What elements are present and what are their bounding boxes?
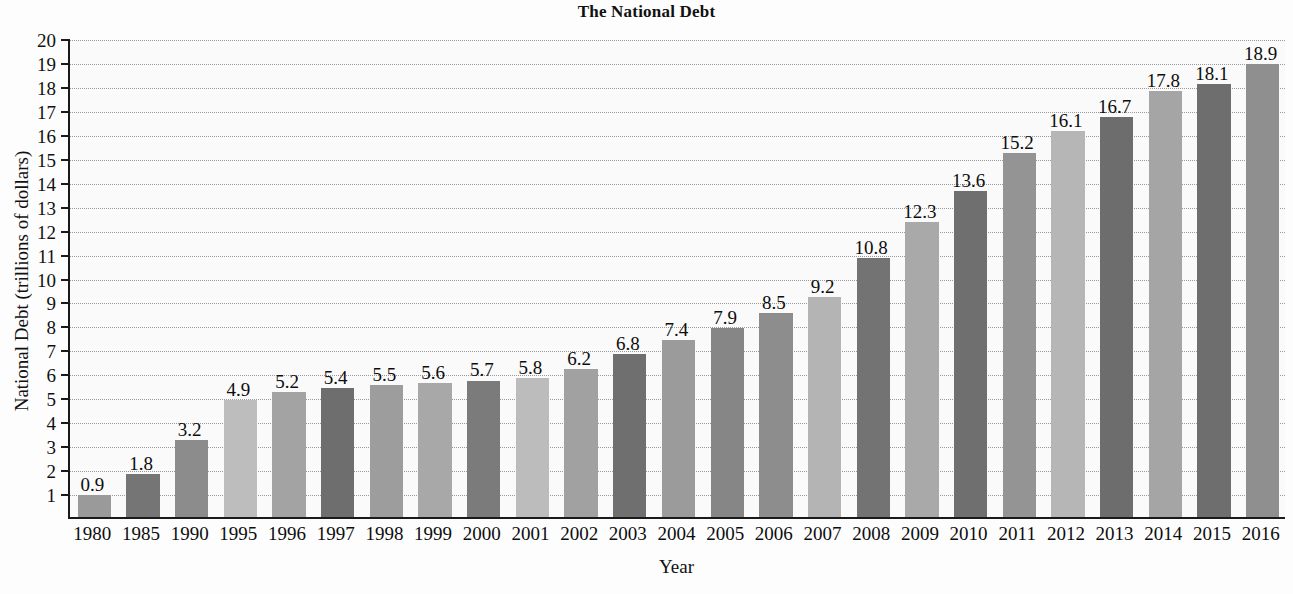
y-axis-tick xyxy=(61,207,70,209)
y-axis-tick xyxy=(61,422,70,424)
y-axis-tick xyxy=(61,231,70,233)
y-axis-tick xyxy=(61,87,70,89)
bar[interactable] xyxy=(370,385,403,517)
x-axis-tick-label: 2016 xyxy=(1230,524,1291,543)
y-axis-tick xyxy=(61,350,70,352)
bar-value-label: 12.3 xyxy=(890,202,951,221)
y-axis-tick-label: 18 xyxy=(16,79,56,98)
y-axis-tick-label: 9 xyxy=(16,294,56,313)
y-axis-tick xyxy=(61,374,70,376)
y-axis-tick xyxy=(61,446,70,448)
bar[interactable] xyxy=(321,388,354,517)
y-axis-tick-label: 20 xyxy=(16,31,56,50)
bar-value-label: 1.8 xyxy=(111,454,172,473)
y-axis-tick xyxy=(61,111,70,113)
y-axis-tick-label: 11 xyxy=(16,247,56,266)
bar[interactable] xyxy=(613,354,646,517)
bar-value-label: 8.5 xyxy=(744,293,805,312)
bar-value-label: 10.8 xyxy=(841,238,902,257)
y-axis-tick-label: 8 xyxy=(16,318,56,337)
bar[interactable] xyxy=(1051,131,1084,517)
y-axis-tick-labels: 2019181716151413121110987654321 xyxy=(12,40,56,519)
y-axis-tick-label: 12 xyxy=(16,223,56,242)
bar[interactable] xyxy=(954,191,987,517)
y-axis-tick-label: 15 xyxy=(16,151,56,170)
bar[interactable] xyxy=(711,328,744,517)
x-axis-title: Year xyxy=(68,556,1285,578)
y-axis-tick-label: 13 xyxy=(16,199,56,218)
y-axis-tick xyxy=(61,63,70,65)
y-axis-tick-label: 6 xyxy=(16,366,56,385)
bar[interactable] xyxy=(564,369,597,517)
gridline xyxy=(70,40,1285,41)
y-axis-tick-label: 10 xyxy=(16,271,56,290)
y-axis-tick xyxy=(61,159,70,161)
bar[interactable] xyxy=(1100,117,1133,517)
bar[interactable] xyxy=(759,313,792,517)
bar[interactable] xyxy=(175,440,208,517)
national-debt-bar-chart: The National Debt National Debt (trillio… xyxy=(0,0,1293,594)
y-axis-tick xyxy=(61,398,70,400)
y-axis-tick xyxy=(61,279,70,281)
bar-value-label: 16.7 xyxy=(1084,97,1145,116)
y-axis-tick-label: 1 xyxy=(16,486,56,505)
bar[interactable] xyxy=(808,297,841,517)
y-axis-tick xyxy=(61,255,70,257)
y-axis-tick xyxy=(61,470,70,472)
y-axis-tick-label: 19 xyxy=(16,55,56,74)
bar-value-label: 15.2 xyxy=(987,133,1048,152)
bar-value-label: 3.2 xyxy=(159,420,220,439)
y-axis-tick-label: 7 xyxy=(16,342,56,361)
y-axis-tick-label: 4 xyxy=(16,414,56,433)
y-axis-tick xyxy=(61,39,70,41)
bar[interactable] xyxy=(516,378,549,517)
bar[interactable] xyxy=(224,400,257,517)
y-axis-tick-label: 16 xyxy=(16,127,56,146)
bar-value-label: 18.1 xyxy=(1182,64,1243,83)
bar[interactable] xyxy=(1246,64,1279,517)
y-axis-tick-label: 3 xyxy=(16,438,56,457)
bar[interactable] xyxy=(126,474,159,517)
gridline xyxy=(70,64,1285,65)
bar[interactable] xyxy=(418,383,451,517)
bar-value-label: 0.9 xyxy=(62,475,123,494)
bar[interactable] xyxy=(1003,153,1036,517)
y-axis-tick-label: 17 xyxy=(16,103,56,122)
y-axis-tick xyxy=(61,302,70,304)
bar-value-label: 13.6 xyxy=(938,171,999,190)
y-axis-tick xyxy=(61,135,70,137)
bar-value-label: 18.9 xyxy=(1230,44,1291,63)
bar[interactable] xyxy=(78,495,111,517)
gridline xyxy=(70,88,1285,89)
bar[interactable] xyxy=(1149,91,1182,517)
chart-title: The National Debt xyxy=(0,2,1293,22)
bar[interactable] xyxy=(662,340,695,517)
y-axis-tick-label: 5 xyxy=(16,390,56,409)
y-axis-tick-label: 2 xyxy=(16,462,56,481)
bar-value-label: 9.2 xyxy=(792,277,853,296)
y-axis-tick xyxy=(61,183,70,185)
bar[interactable] xyxy=(857,258,890,517)
y-axis-tick xyxy=(61,326,70,328)
bar[interactable] xyxy=(467,381,500,518)
bar[interactable] xyxy=(905,222,938,517)
y-axis-tick-label: 14 xyxy=(16,175,56,194)
bar[interactable] xyxy=(272,392,305,517)
bar[interactable] xyxy=(1197,84,1230,517)
